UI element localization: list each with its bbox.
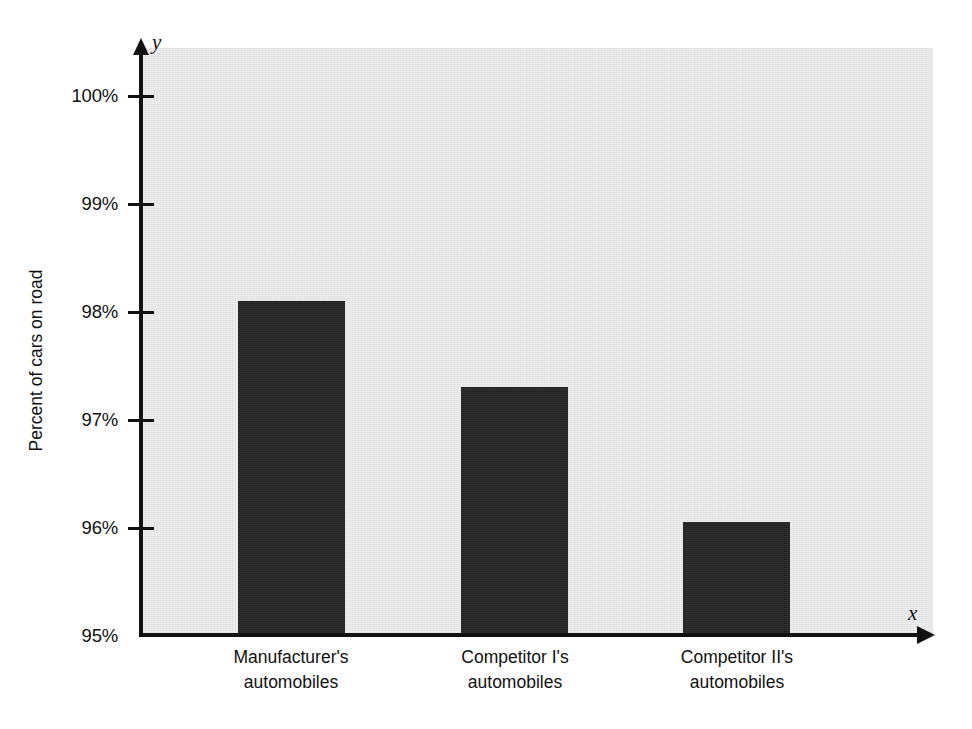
bar-competitor-1-automobiles: [461, 387, 568, 635]
y-tick-label-100: 100%: [28, 85, 118, 107]
x-category-label-manufacturers: Manufacturer's automobiles: [181, 645, 401, 695]
x-axis-letter: x: [908, 601, 917, 626]
y-tick-label-95: 95%: [28, 625, 118, 647]
y-tick-98: [128, 311, 154, 314]
x-axis-arrow-icon: [917, 626, 935, 644]
y-tick-96: [128, 527, 154, 530]
x-category-label-competitor-1: Competitor I's automobiles: [405, 645, 625, 695]
x-category-label-competitor-2: Competitor II's automobiles: [627, 645, 847, 695]
x-category-label-line2: automobiles: [627, 670, 847, 695]
x-category-label-line2: automobiles: [181, 670, 401, 695]
y-axis-title: Percent of cars on road: [26, 251, 47, 471]
y-axis-line: [139, 52, 143, 637]
bar-competitor-2-automobiles: [683, 522, 790, 635]
bar-chart-figure: y x 100% 99% 98% 97% 96% 95% Percent of …: [0, 0, 972, 729]
y-axis-letter: y: [152, 30, 161, 55]
y-tick-100: [128, 95, 154, 98]
x-category-label-line1: Competitor I's: [405, 645, 625, 670]
x-axis-line: [139, 633, 922, 637]
y-tick-label-96: 96%: [28, 517, 118, 539]
bar-manufacturers-automobiles: [238, 301, 345, 635]
y-tick-99: [128, 203, 154, 206]
x-category-label-line1: Manufacturer's: [181, 645, 401, 670]
y-tick-97: [128, 419, 154, 422]
y-tick-label-99: 99%: [28, 193, 118, 215]
x-category-label-line1: Competitor II's: [627, 645, 847, 670]
x-category-label-line2: automobiles: [405, 670, 625, 695]
y-axis-arrow-icon: [133, 38, 149, 55]
